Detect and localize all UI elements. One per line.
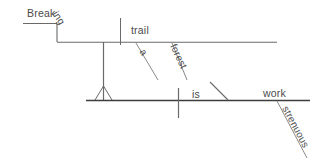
diagram-canvas [0,0,325,162]
pedestal-leg-left [95,86,104,100]
sentence-diagram: Break ing trail a forest is work strenuo… [0,0,325,162]
word-verb: is [192,88,200,100]
word-predicate-noun: work [263,87,286,99]
predicate-nominative-slant [210,82,228,100]
word-direct-object: trail [131,24,149,36]
pedestal-leg-right [104,86,113,100]
